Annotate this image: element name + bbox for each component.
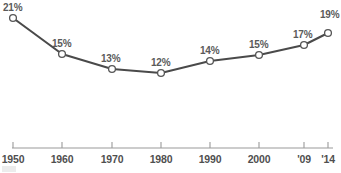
x-axis-tick-label: 1990: [199, 153, 222, 165]
data-point-label: 12%: [151, 57, 170, 68]
data-point-label: 13%: [101, 53, 120, 64]
data-point-marker[interactable]: [301, 42, 308, 49]
x-axis-tick-label: 1950: [2, 153, 25, 165]
data-point-marker[interactable]: [325, 30, 332, 37]
scan-artifact: [2, 166, 16, 172]
data-point-label: 15%: [52, 38, 71, 49]
x-axis-tick-label: 2000: [248, 153, 271, 165]
data-point-marker[interactable]: [10, 15, 17, 22]
data-point-label: 14%: [200, 45, 219, 56]
x-axis-tick-label: '14: [321, 153, 335, 165]
chart-plot-area: [0, 0, 341, 173]
line-chart: 21%15%13%12%14%15%17%19% 195019601970198…: [0, 0, 341, 173]
data-point-label: 19%: [320, 9, 339, 20]
data-point-marker[interactable]: [256, 52, 263, 59]
x-axis: [12, 142, 333, 148]
x-axis-tick-label: '09: [297, 153, 311, 165]
data-point-label: 15%: [249, 39, 268, 50]
x-axis-tick-label: 1970: [101, 153, 124, 165]
x-axis-tick-label: 1980: [150, 153, 173, 165]
x-axis-tick-label: 1960: [51, 153, 74, 165]
data-point-marker[interactable]: [207, 58, 214, 65]
data-point-marker[interactable]: [158, 70, 165, 77]
data-point-marker[interactable]: [109, 66, 116, 73]
data-point-label: 17%: [293, 29, 312, 40]
data-point-marker[interactable]: [59, 51, 66, 58]
data-point-label: 21%: [3, 2, 22, 13]
